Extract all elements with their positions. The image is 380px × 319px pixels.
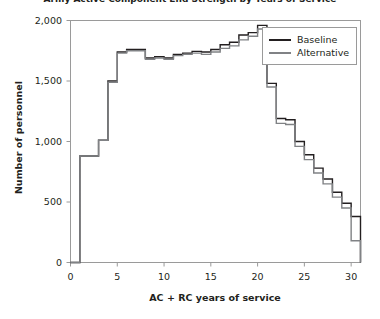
y-tick-label: 2,000 bbox=[20, 16, 62, 26]
y-axis-title: Number of personnel bbox=[13, 58, 24, 218]
legend-swatch-baseline bbox=[269, 39, 291, 41]
x-tick-label: 5 bbox=[102, 272, 132, 282]
y-tick-label: 500 bbox=[20, 197, 62, 207]
x-tick-label: 25 bbox=[289, 272, 319, 282]
x-tick-label: 0 bbox=[56, 272, 86, 282]
legend-label-alternative: Alternative bbox=[297, 47, 349, 58]
legend-item-baseline[interactable]: Baseline bbox=[269, 33, 349, 46]
legend-swatch-alternative bbox=[269, 52, 291, 54]
y-tick-label: 1,500 bbox=[20, 76, 62, 86]
x-tick-label: 20 bbox=[243, 272, 273, 282]
chart-legend: Baseline Alternative bbox=[262, 27, 357, 65]
x-axis-title: AC + RC years of service bbox=[60, 292, 370, 303]
x-tick-label: 15 bbox=[196, 272, 226, 282]
y-tick-label: 0 bbox=[20, 258, 62, 268]
legend-label-baseline: Baseline bbox=[297, 34, 337, 45]
x-tick-label: 10 bbox=[149, 272, 179, 282]
legend-item-alternative[interactable]: Alternative bbox=[269, 46, 349, 59]
y-tick-label: 1,000 bbox=[20, 137, 62, 147]
chart-figure: Army Active Component End Strength by Ye… bbox=[0, 0, 380, 319]
x-tick-label: 30 bbox=[336, 272, 366, 282]
